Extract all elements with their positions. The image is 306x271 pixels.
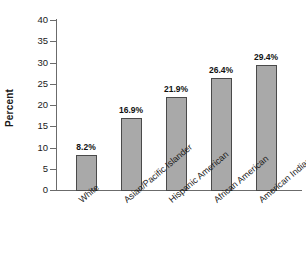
y-tick-mark [50,41,57,42]
bar-value-label: 21.9% [154,85,198,94]
y-tick-label: 0 [22,185,48,194]
bar-value-label: 26.4% [199,66,243,75]
bar-value-label: 16.9% [109,106,153,115]
y-axis-title: Percent [4,68,16,148]
y-tick-mark [50,169,57,170]
y-tick-mark [50,126,57,127]
y-tick-label-text: 25 [26,79,48,88]
y-tick-mark [50,63,57,64]
y-tick-label-text: 20 [26,100,48,109]
y-tick-label-text: 0 [26,185,48,194]
y-tick-label-text: 40 [26,15,48,24]
y-tick-mark [50,190,57,191]
y-tick-mark [50,20,57,21]
bar [256,65,277,191]
bar [211,78,232,191]
y-tick-mark [50,84,57,85]
y-tick-label: 25 [22,79,48,88]
y-tick-label: 10 [22,143,48,152]
bar-value-label: 29.4% [244,53,288,62]
y-tick-mark [50,105,57,106]
y-tick-label-text: 5 [26,164,48,173]
y-tick-label-text: 35 [26,36,48,45]
y-tick-label: 5 [22,164,48,173]
y-tick-label: 15 [22,121,48,130]
y-tick-label-text: 30 [26,58,48,67]
y-tick-label: 30 [22,58,48,67]
bar-chart: Percent 0510152025303540 8.2%16.9%21.9%2… [0,0,306,271]
y-tick-label: 35 [22,36,48,45]
y-tick-label: 20 [22,100,48,109]
bar-value-label: 8.2% [64,143,108,152]
y-tick-mark [50,148,57,149]
y-tick-label-text: 10 [26,143,48,152]
y-tick-label: 40 [22,15,48,24]
bar [121,118,142,191]
y-tick-label-text: 15 [26,121,48,130]
